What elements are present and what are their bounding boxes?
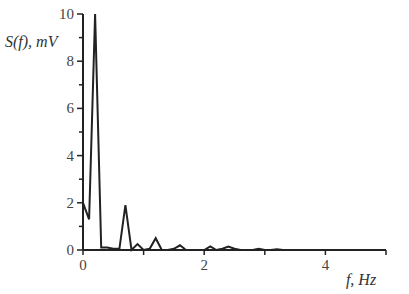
x-axis-title: f, Hz (346, 271, 377, 289)
y-tick-label: 8 (67, 53, 75, 69)
x-axis: 024 (79, 250, 386, 273)
x-tick-label: 2 (200, 257, 208, 273)
series-line (83, 14, 386, 250)
y-tick-label: 4 (67, 148, 75, 164)
y-tick-label: 2 (67, 195, 75, 211)
x-tick-label: 0 (79, 257, 87, 273)
data-series (83, 14, 386, 250)
y-tick-label: 10 (59, 6, 74, 22)
x-tick-label: 4 (322, 257, 330, 273)
y-axis: 0246810 (59, 6, 83, 258)
y-tick-label: 0 (67, 242, 75, 258)
y-axis-title: S(f), mV (5, 33, 60, 51)
y-tick-label: 6 (67, 100, 75, 116)
spectrum-chart: 0246810 024 S(f), mV f, Hz (0, 0, 409, 294)
